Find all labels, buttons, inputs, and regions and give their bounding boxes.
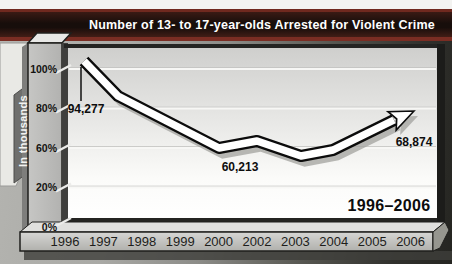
value-label: 94,277 [68,102,105,116]
y-tick-label: 60% [15,142,57,154]
y-tick-label: 20% [15,181,57,193]
y-tick-label: 80% [15,102,57,114]
y-column-top-face [28,33,71,43]
x-base-top-face [20,222,445,232]
x-tick-label: 2002 [237,234,277,249]
x-tick-label: 2000 [199,234,239,249]
range-label: 1996–2006 [330,197,448,215]
y-tick-label: 0% [15,221,57,233]
x-tick-label: 1996 [45,234,85,249]
value-label: 60,213 [222,160,259,174]
y-column-right-edge [62,43,68,232]
unit-tab-label: In thousands [17,81,31,181]
value-label: 68,874 [396,135,433,149]
plot-border-top [64,44,445,48]
plot-border-bottom [68,218,437,222]
x-tick-label: 1999 [160,234,200,249]
x-tick-label: 1998 [122,234,162,249]
chart-canvas [0,0,452,264]
x-tick-label: 1997 [83,234,123,249]
base-shadow [24,251,452,260]
x-tick-label: 2006 [391,234,431,249]
slide: Number of 13- to 17-year-olds Arrested f… [0,0,452,264]
y-tick-label: 100% [15,63,57,75]
x-tick-label: 2004 [314,234,354,249]
x-tick-label: 2003 [275,234,315,249]
x-tick-label: 2005 [352,234,392,249]
